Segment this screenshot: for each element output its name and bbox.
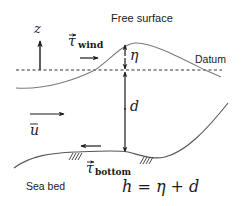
sea-bed-curve xyxy=(14,103,228,168)
tau-bottom-label: τ bottom xyxy=(86,160,132,177)
bed-hatch-left-icon xyxy=(69,153,82,160)
velocity-label: u xyxy=(30,122,39,138)
shallow-water-diagram: Free surface z τ wind Datum η d u xyxy=(0,0,243,206)
free-surface-curve xyxy=(16,43,221,88)
svg-text:bottom: bottom xyxy=(95,167,132,177)
eta-label: η xyxy=(130,47,139,63)
equation-label: h = η + d xyxy=(122,177,199,196)
depth-label: d xyxy=(130,98,139,114)
svg-text:wind: wind xyxy=(77,39,104,50)
free-surface-label: Free surface xyxy=(111,12,173,24)
sea-bed-label: Sea bed xyxy=(26,180,65,192)
z-axis-label: z xyxy=(33,21,41,36)
tau-wind-label: τ wind xyxy=(68,33,104,50)
datum-label: Datum xyxy=(195,53,226,65)
